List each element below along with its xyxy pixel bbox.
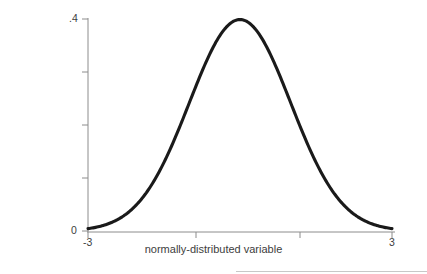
x-axis-title: normally-distributed variable: [0, 243, 427, 255]
normal-distribution-plot: [0, 0, 427, 274]
y-axis-ticks: [82, 19, 88, 231]
chart-figure: .4 0 -3 3 normally-distributed variable …: [0, 0, 427, 274]
y-axis-tick-label-max: .4: [69, 13, 78, 24]
normal-density-curve: [88, 20, 392, 229]
bottom-divider: [236, 271, 427, 272]
y-axis-tick-label-min: 0: [71, 225, 77, 236]
x-axis-ticks: [88, 232, 392, 238]
